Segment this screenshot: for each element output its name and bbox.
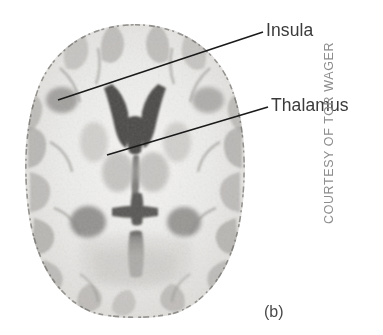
brain-slice-content [20,22,250,320]
image-credit: COURTESY OF TOR WAGER [322,24,336,224]
label-thalamus: Thalamus [271,95,349,116]
brain-mri-image [20,22,250,320]
panel-letter: (b) [264,303,284,321]
mri-noise-overlay [20,22,250,320]
label-insula: Insula [266,20,313,41]
brain-mri-svg [20,22,250,320]
figure-container: Insula Thalamus (b) COURTESY OF TOR WAGE… [0,0,383,335]
